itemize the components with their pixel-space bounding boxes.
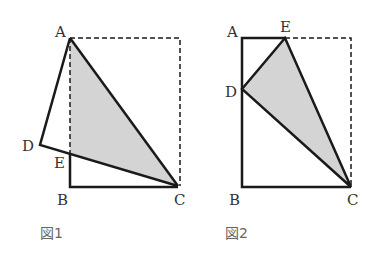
fig2-label-C: C	[347, 191, 358, 209]
fig2-label-D: D	[225, 83, 237, 101]
fig1-label-C: C	[174, 191, 185, 209]
figure-1: A D E B C 図1	[22, 23, 185, 241]
fig1-label-A: A	[54, 23, 66, 41]
fig2-caption: 図2	[225, 225, 248, 241]
fig1-label-E: E	[54, 154, 65, 172]
fig2-shaded-triangle	[242, 38, 351, 187]
fig1-label-D: D	[22, 137, 34, 155]
figure-2: A E D B C 図2	[225, 18, 358, 241]
fig1-label-B: B	[57, 191, 68, 209]
fig2-label-B: B	[229, 191, 240, 209]
fig2-label-E: E	[280, 18, 291, 36]
diagram-canvas: A D E B C 図1 A E D B C 図2	[0, 0, 377, 258]
fig2-label-A: A	[226, 23, 238, 41]
fig1-caption: 図1	[40, 225, 63, 241]
